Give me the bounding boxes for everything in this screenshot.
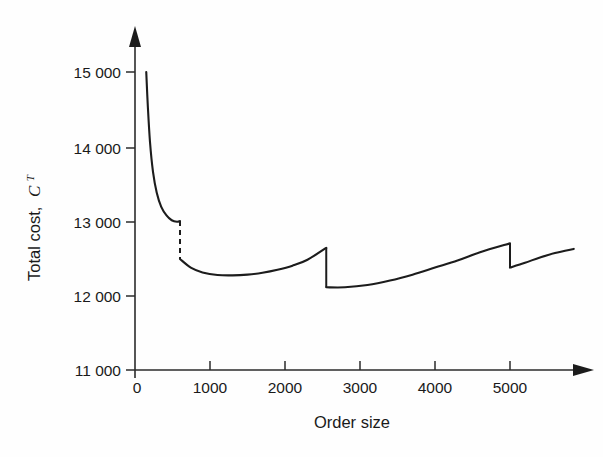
y-tick-label-13000: 13 000 [74,214,122,231]
x-tick-label-0: 0 [133,379,142,396]
chart-figure: 15 000 14 000 13 000 12 000 11 000 Total… [0,0,603,457]
y-tick-label-12000: 12 000 [74,288,122,305]
y-axis-title-main: Total cost, [25,207,43,281]
y-tick-label-15000: 15 000 [74,64,122,81]
x-tick-label-4000: 4000 [418,379,453,396]
x-axis-title: Order size [314,413,390,431]
y-axis-title-text: Total cost, C T [24,174,44,281]
y-axis-title: Total cost, C T [24,174,44,281]
total-cost-line-chart: 15 000 14 000 13 000 12 000 11 000 Total… [0,0,603,457]
y-tick-label-11000: 11 000 [75,362,122,379]
y-axis-title-superscript: T [24,174,36,181]
y-tick-label-14000: 14 000 [74,140,122,157]
x-tick-label-2000: 2000 [268,379,303,396]
x-tick-label-5000: 5000 [493,379,528,396]
y-axis-title-symbol: C [25,185,44,197]
x-tick-label-1000: 1000 [193,379,228,396]
x-tick-label-3000: 3000 [343,379,378,396]
